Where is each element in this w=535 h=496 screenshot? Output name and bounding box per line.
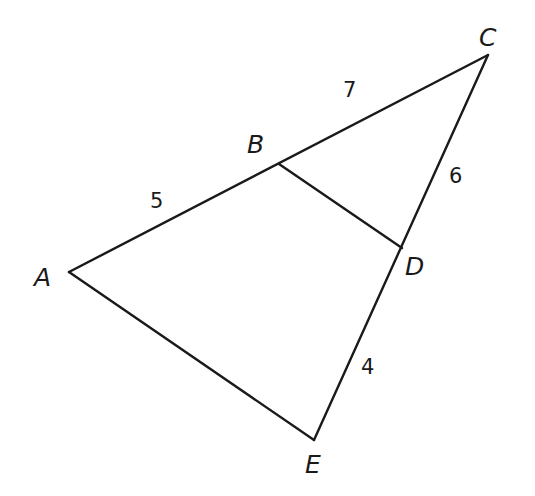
segment-bd [279, 164, 402, 248]
length-label-de: 4 [361, 355, 374, 379]
vertex-label-c: C [479, 23, 497, 52]
vertex-label-b: B [247, 130, 264, 159]
length-label-bc: 7 [343, 78, 356, 102]
length-label-ab: 5 [150, 189, 163, 213]
vertex-label-a: A [32, 263, 51, 292]
length-label-cd: 6 [449, 164, 462, 188]
vertex-label-e: E [305, 450, 321, 479]
vertex-label-d: D [405, 252, 424, 281]
geometry-diagram: A B C D E 5 7 6 4 [0, 0, 535, 496]
segment-ea [69, 272, 314, 440]
